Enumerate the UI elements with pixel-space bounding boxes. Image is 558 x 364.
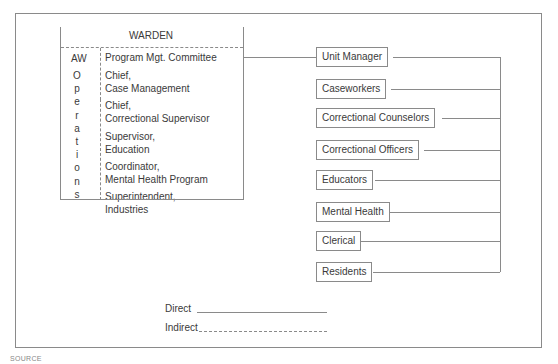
warden-title: WARDEN [129, 30, 173, 42]
operations-letter: e [72, 95, 82, 108]
node-mental-health: Mental Health [316, 202, 390, 222]
role-chief-correctional-supervisor: Chief, Correctional Supervisor [105, 100, 210, 125]
bus-residents [373, 272, 500, 273]
legend-indirect-label: Indirect [165, 322, 198, 334]
column-divider [100, 48, 101, 100]
operations-letter: i [72, 148, 82, 161]
warden-box-bottom [60, 199, 244, 200]
node-educators: Educators [316, 170, 373, 190]
source-note: SOURCE [10, 355, 42, 362]
operations-letter: n [72, 175, 82, 188]
legend-indirect-line [199, 331, 327, 332]
legend-direct-line [197, 312, 327, 313]
bus-clerical [360, 241, 500, 242]
legend-direct-label: Direct [165, 303, 191, 315]
column-divider-ext [100, 99, 101, 200]
node-clerical: Clerical [316, 231, 361, 251]
node-correctional-counselors: Correctional Counselors [316, 108, 435, 128]
bus-correctional-counselors [442, 118, 500, 119]
bus-correctional-officers [424, 150, 500, 151]
node-unit-manager: Unit Manager [316, 47, 388, 67]
bus-caseworkers [391, 89, 500, 90]
connector-committee-to-unit-manager [243, 57, 316, 58]
role-chief-case-management: Chief, Case Management [105, 70, 190, 95]
warden-box-left-border-ext [60, 99, 61, 200]
node-caseworkers: Caseworkers [316, 79, 386, 99]
operations-letter: t [72, 135, 82, 148]
warden-box-right-border-ext [243, 99, 244, 200]
role-superintendent-industries: Superintendent, Industries [105, 191, 176, 216]
warden-divider [61, 47, 243, 48]
operations-letter: r [72, 109, 82, 122]
node-residents: Residents [316, 262, 372, 282]
bus-vertical [500, 57, 501, 272]
warden-box-left-border [60, 27, 61, 100]
operations-vertical-label: O p e r a t i o n s [72, 69, 82, 201]
bus-educators [375, 180, 500, 181]
aw-label: AW [71, 53, 87, 65]
role-program-mgt-committee: Program Mgt. Committee [105, 52, 217, 64]
operations-letter: p [72, 82, 82, 95]
bus-unit-manager [393, 57, 500, 58]
role-coordinator-mental-health: Coordinator, Mental Health Program [105, 161, 208, 186]
operations-letter: a [72, 122, 82, 135]
operations-letter: O [72, 69, 82, 82]
node-correctional-officers: Correctional Officers [316, 140, 419, 160]
role-supervisor-education: Supervisor, Education [105, 131, 155, 156]
warden-box-right-border [243, 27, 244, 100]
operations-letter: o [72, 161, 82, 174]
bus-mental-health [390, 212, 500, 213]
